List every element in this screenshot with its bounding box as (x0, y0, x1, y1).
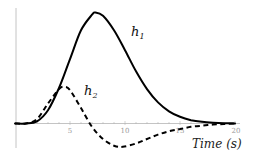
x-axis-title: Time (s) (192, 137, 242, 151)
h2-label: h2 (84, 83, 97, 100)
x-tick-label-10: 10 (121, 127, 130, 135)
h1-label: h1 (131, 24, 144, 41)
x-tick-label-20: 20 (232, 127, 241, 135)
impulse-response-chart: 5 10 15 20 h1 h2 Time (s) (0, 0, 259, 155)
x-tick-label-5: 5 (68, 127, 72, 135)
h1-curve (15, 12, 235, 123)
